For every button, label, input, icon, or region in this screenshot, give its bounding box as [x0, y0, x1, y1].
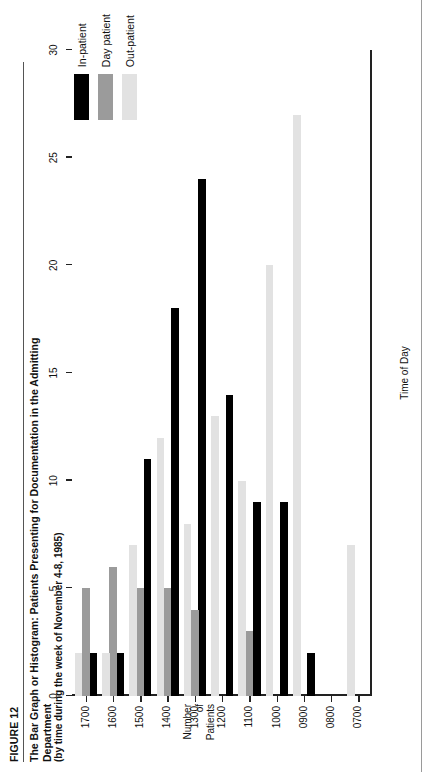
bar-chart-plot-area: NumberofPatients Time of Day 05101520253… [72, 50, 372, 696]
y-axis-tick-label: 25 [48, 138, 59, 178]
rotated-figure-canvas: FIGURE 12 The Bar Graph or Histogram: Pa… [0, 0, 428, 772]
x-axis-tick-label: 1600 [107, 706, 118, 740]
bar-in-patient-1500 [144, 459, 152, 696]
y-axis-tick-label: 5 [48, 568, 59, 608]
x-axis-tick-label: 0900 [298, 706, 309, 740]
x-axis-tick-label: 1200 [216, 706, 227, 740]
figure-label: FIGURE 12 [8, 42, 20, 762]
bar-out-patient-1000 [266, 265, 274, 696]
bar-in-patient-1000 [280, 502, 288, 696]
bar-out-patient-1500 [129, 545, 137, 696]
x-axis-tick-label: 0700 [352, 706, 363, 740]
bar-in-patient-1400 [171, 308, 179, 696]
bar-out-patient-1100 [238, 481, 246, 696]
y-axis-tick [66, 49, 72, 50]
bar-out-patient-0700 [347, 545, 355, 696]
bar-out-patient-1400 [157, 438, 165, 696]
x-axis-tick-label: 1000 [271, 706, 282, 740]
x-axis-tick [195, 696, 196, 702]
x-axis-tick [222, 696, 223, 702]
x-axis-tick-label: 1100 [243, 706, 254, 740]
y-axis-tick-label: 30 [48, 30, 59, 70]
figure-title-line-1: The Bar Graph or Histogram: Patients Pre… [28, 42, 41, 762]
figure-page: FIGURE 12 The Bar Graph or Histogram: Pa… [0, 0, 428, 772]
bar-day-patient-1100 [246, 631, 254, 696]
x-axis-title: Time of Day [399, 50, 410, 696]
bar-day-patient-1700 [82, 588, 90, 696]
x-axis-tick [249, 696, 250, 702]
y-axis-title-line: Patients [205, 704, 217, 772]
caption-divider [23, 62, 24, 762]
x-axis-tick [358, 696, 359, 702]
bar-out-patient-1700 [75, 653, 83, 696]
y-axis-tick-label: 20 [48, 245, 59, 285]
y-axis-tick [66, 156, 72, 157]
bar-day-patient-1600 [109, 567, 117, 696]
bar-in-patient-1300 [198, 179, 206, 696]
bar-day-patient-1500 [137, 588, 145, 696]
y-axis-tick [66, 264, 72, 265]
bar-in-patient-0900 [307, 653, 315, 696]
y-axis-tick [66, 695, 72, 696]
y-axis-tick-label: 15 [48, 353, 59, 393]
x-axis-tick-label: 0800 [325, 706, 336, 740]
y-axis-tick [66, 372, 72, 373]
bar-in-patient-1600 [117, 653, 125, 696]
x-axis-line [370, 50, 372, 696]
page-footer-rule [421, 0, 422, 772]
x-axis-tick [86, 696, 87, 702]
x-axis-tick-label: 1300 [189, 706, 200, 740]
bar-in-patient-1700 [89, 653, 97, 696]
x-axis-tick-label: 1400 [161, 706, 172, 740]
bar-day-patient-1400 [164, 588, 172, 696]
bar-in-patient-1200 [226, 395, 234, 696]
y-axis-tick-label: 10 [48, 461, 59, 501]
x-axis-tick [277, 696, 278, 702]
y-axis-tick [66, 479, 72, 480]
y-axis-tick-label: 0 [48, 676, 59, 716]
x-axis-tick-label: 1700 [80, 706, 91, 740]
x-axis-tick [304, 696, 305, 702]
bar-in-patient-1100 [253, 502, 261, 696]
bar-out-patient-1600 [102, 653, 110, 696]
x-axis-tick [140, 696, 141, 702]
x-axis-tick [167, 696, 168, 702]
x-axis-tick-label: 1500 [134, 706, 145, 740]
bar-out-patient-0900 [293, 115, 301, 696]
y-axis-tick [66, 587, 72, 588]
bar-out-patient-1300 [184, 524, 192, 696]
x-axis-tick [331, 696, 332, 702]
x-axis-tick [113, 696, 114, 702]
bar-day-patient-1300 [191, 610, 199, 696]
bar-out-patient-1200 [211, 416, 219, 696]
